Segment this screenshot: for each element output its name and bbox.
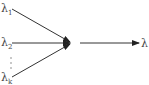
arrow-lambdak xyxy=(12,44,70,77)
arrow-lambda1 xyxy=(12,9,70,42)
vertical-ellipsis xyxy=(10,57,11,68)
diagram-canvas xyxy=(0,0,149,85)
label-lambda-output: λ xyxy=(141,38,148,49)
label-lambda1: λ1 xyxy=(1,3,12,17)
label-lambdak: λk xyxy=(1,72,12,85)
label-lambda2: λ2 xyxy=(1,37,12,51)
